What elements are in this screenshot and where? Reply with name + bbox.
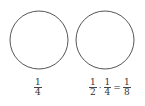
left-label: 1 4: [34, 78, 42, 97]
fraction-one-quarter: 1 4: [34, 78, 42, 97]
fraction-one-eighth: 1 8: [123, 78, 131, 97]
right-circle: [76, 11, 134, 69]
multiply-operator: ·: [99, 83, 102, 93]
fraction-one-quarter: 1 4: [104, 78, 112, 97]
right-label: 1 2 · 1 4 = 1 8: [89, 78, 131, 97]
left-circle: [10, 11, 68, 69]
equals-operator: =: [113, 83, 121, 93]
fraction-one-half: 1 2: [89, 78, 97, 97]
